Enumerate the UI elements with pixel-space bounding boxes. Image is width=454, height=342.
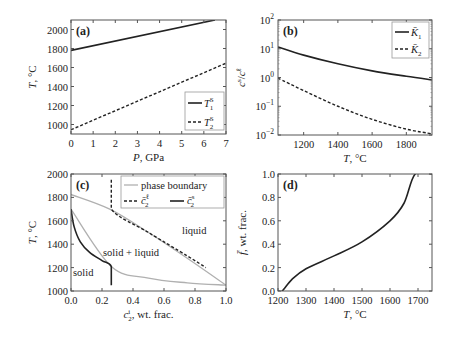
legend-entry-phase-boundary: phase boundary: [141, 180, 208, 191]
y-tick-label: 2000: [47, 25, 68, 36]
y-tick-label: 1800: [47, 192, 68, 203]
y-tick-label: 1400: [47, 239, 68, 250]
x-tick-label: 1700: [408, 295, 429, 306]
x-tick-label: 3: [135, 138, 140, 149]
y-tick-label: 102: [260, 12, 275, 26]
y-tick-label: 2000: [47, 169, 68, 180]
x-axis-label: T, °C: [343, 152, 366, 164]
x-tick-label: 1300: [296, 295, 317, 306]
x-tick-label: 1200: [293, 139, 314, 150]
x-tick-label: 1600: [362, 139, 383, 150]
y-axis-label: T, °C: [26, 221, 38, 244]
x-axis-label: ci2, wt. frac.: [123, 308, 173, 323]
x-tick-label: 1400: [327, 139, 348, 150]
panel-label: (b): [283, 24, 298, 38]
x-tick-label: 6: [201, 138, 206, 149]
x-tick-label: 0.2: [95, 295, 108, 306]
y-tick-label: 0.6: [262, 216, 275, 227]
series-group: [278, 47, 432, 134]
y-tick-label: 1400: [47, 82, 68, 93]
panel-d: 1200130014001500160017000.00.20.40.60.81…: [236, 169, 432, 320]
legend-b: K̄1K̄2: [392, 22, 429, 58]
panel-label: (d): [283, 178, 298, 192]
series-K2: [278, 78, 432, 134]
x-tick-label: 1500: [352, 295, 373, 306]
x-tick-label: 1800: [396, 139, 417, 150]
x-tick-label: 0.6: [157, 295, 170, 306]
x-tick-label: 1600: [380, 295, 401, 306]
y-tick-label: 0.2: [262, 263, 275, 274]
y-axis-label: T, °C: [26, 65, 38, 88]
y-tick-label: 10−2: [256, 127, 275, 141]
x-tick-label: 4: [157, 138, 163, 149]
y-tick-label: 1000: [47, 286, 68, 297]
y-tick-label: 0.4: [262, 239, 276, 250]
region-label-solid-liquid: solid + liquid: [103, 247, 160, 258]
x-tick-label: 0.8: [188, 295, 201, 306]
y-tick-label: 1200: [47, 263, 68, 274]
panel-a: 01234567100012001400160018002000(a)P, GP…: [26, 20, 229, 163]
x-tick-label: 1: [91, 138, 96, 149]
y-tick-label: 1600: [47, 63, 68, 74]
series-f: [278, 172, 432, 292]
x-tick-label: 0.4: [126, 295, 140, 306]
series-group: [278, 172, 432, 292]
x-tick-label: 0: [68, 138, 73, 149]
y-axis-label: f̄, wt. frac.: [236, 210, 248, 255]
x-tick-label: 1400: [324, 295, 345, 306]
y-tick-label: 101: [260, 41, 275, 55]
y-tick-label: 1800: [47, 44, 68, 55]
panel-label: (a): [76, 24, 90, 38]
x-tick-label: 7: [223, 138, 228, 149]
region-label-solid: solid: [73, 267, 94, 278]
series-T1S: [71, 20, 215, 50]
y-tick-label: 10−1: [256, 98, 275, 112]
figure: 01234567100012001400160018002000(a)P, GP…: [0, 0, 454, 342]
y-tick-label: 0.0: [262, 286, 275, 297]
legend-a: TS1TS2: [185, 92, 224, 131]
y-tick-label: 0.8: [262, 192, 275, 203]
panel-label: (c): [76, 178, 89, 192]
x-tick-label: 5: [179, 138, 184, 149]
y-tick-label: 1.0: [262, 169, 275, 180]
y-tick-label: 1600: [47, 216, 68, 227]
legend-c: phase boundaryc̄ℓ2c̄s2: [121, 176, 224, 209]
y-axis-label: cs/cℓ: [235, 68, 247, 87]
x-tick-label: 1.0: [219, 295, 232, 306]
x-axis-label: P, GPa: [132, 151, 164, 163]
x-axis-label: T, °C: [343, 308, 366, 320]
y-tick-label: 1200: [47, 101, 68, 112]
y-tick-label: 1000: [47, 120, 68, 131]
region-label-liquid: liquid: [182, 225, 207, 236]
y-tick-label: 100: [260, 70, 275, 84]
x-tick-label: 2: [113, 138, 118, 149]
